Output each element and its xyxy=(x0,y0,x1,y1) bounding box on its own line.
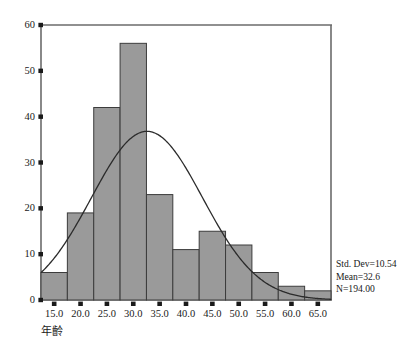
histogram-bar xyxy=(67,213,93,300)
y-tick-label: 40 xyxy=(13,111,35,122)
y-tick-mark xyxy=(38,252,43,256)
x-tick-mark xyxy=(236,302,241,306)
bars-layer xyxy=(41,43,331,300)
x-tick-label: 65.0 xyxy=(301,308,335,319)
y-tick-mark xyxy=(38,23,43,27)
y-tick-mark xyxy=(38,206,43,210)
x-tick-mark xyxy=(105,302,110,306)
y-tick-mark xyxy=(38,160,43,164)
n-label: N=194.00 xyxy=(336,283,418,296)
histogram-bar xyxy=(173,250,199,300)
histogram-chart: 0102030405060 15.020.025.030.035.040.045… xyxy=(0,0,418,354)
x-tick-mark xyxy=(210,302,215,306)
histogram-bar xyxy=(199,231,225,300)
chart-canvas xyxy=(0,0,418,354)
histogram-bar xyxy=(41,273,67,301)
y-tick-label: 10 xyxy=(13,248,35,259)
x-tick-mark xyxy=(131,302,136,306)
histogram-bar xyxy=(146,195,172,300)
y-tick-label: 0 xyxy=(13,294,35,305)
histogram-bar xyxy=(120,43,146,300)
x-tick-mark xyxy=(289,302,294,306)
y-tick-mark xyxy=(38,69,43,73)
mean-label: Mean=32.6 xyxy=(336,271,418,284)
y-tick-label: 30 xyxy=(13,157,35,168)
std-dev-label: Std. Dev=10.54 xyxy=(336,258,418,271)
y-tick-mark xyxy=(38,298,43,302)
x-tick-mark xyxy=(263,302,268,306)
x-tick-mark xyxy=(184,302,189,306)
histogram-bar xyxy=(94,108,120,301)
x-tick-mark xyxy=(52,302,57,306)
x-tick-mark xyxy=(78,302,83,306)
statistics-annotation: Std. Dev=10.54 Mean=32.6 N=194.00 xyxy=(336,258,418,296)
y-tick-label: 20 xyxy=(13,202,35,213)
histogram-bar xyxy=(252,273,278,301)
x-tick-marks xyxy=(52,302,320,306)
y-tick-label: 50 xyxy=(13,65,35,76)
histogram-bar xyxy=(278,286,304,300)
x-axis-title: 年齡 xyxy=(41,322,63,338)
histogram-bar xyxy=(226,245,252,300)
y-tick-mark xyxy=(38,114,43,118)
y-tick-label: 60 xyxy=(13,19,35,30)
x-tick-mark xyxy=(316,302,321,306)
x-tick-mark xyxy=(157,302,162,306)
